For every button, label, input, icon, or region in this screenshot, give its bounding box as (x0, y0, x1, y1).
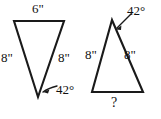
right-triangle-left-side-label: 8" (85, 48, 97, 61)
left-triangle-top-side-label: 6" (32, 2, 44, 15)
left-angle-leader-line (43, 86, 57, 94)
left-triangle-apex-angle-label: 42° (56, 83, 74, 96)
right-triangle-right-side-label: 8" (124, 48, 136, 61)
right-triangle-apex-angle-label: 42° (127, 4, 145, 17)
geometry-diagram-canvas: 6" 8" 8" 42° 42° 8" 8" ? (0, 0, 161, 119)
right-triangle-base-label: ? (111, 96, 117, 109)
left-triangle-left-side-label: 8" (1, 51, 13, 64)
left-triangle-right-side-label: 8" (58, 51, 70, 64)
